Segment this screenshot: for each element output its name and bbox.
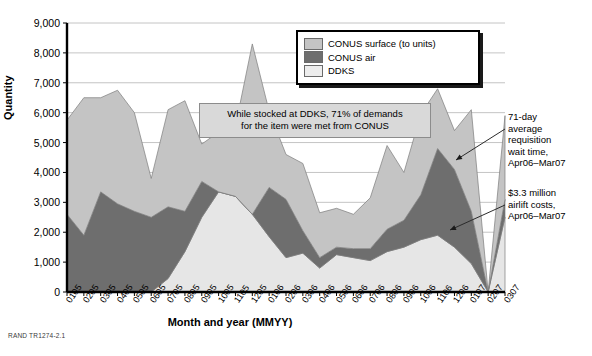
y-axis-tick-label: 4,000 — [16, 166, 60, 178]
legend-label-conus-surface: CONUS surface (to units) — [328, 38, 436, 49]
legend-label-conus-air: CONUS air — [328, 52, 376, 63]
callout-annotation: While stocked at DDKS, 71% of demands fo… — [199, 103, 431, 138]
annotation-airlift-cost: $3.3 million airlift costs, Apr06–Mar07 — [508, 187, 566, 222]
callout-line-2: for the item were met from CONUS — [203, 120, 427, 132]
callout-line-1: While stocked at DDKS, 71% of demands — [203, 108, 427, 120]
legend-item: CONUS air — [304, 51, 472, 63]
legend-item: DDKS — [304, 65, 472, 77]
annotation-requisition-wait-time: 71-day average requisition wait time, Ap… — [508, 111, 566, 169]
legend-label-ddks: DDKS — [328, 65, 354, 76]
chart-legend: CONUS surface (to units) CONUS air DDKS — [296, 30, 480, 85]
y-axis-tick-label: 8,000 — [16, 47, 60, 59]
legend-item: CONUS surface (to units) — [304, 38, 472, 50]
figure-stacked-area-chart: Quantity Month and year (MMYY) CONUS sur… — [0, 0, 592, 356]
legend-swatch-ddks — [304, 65, 323, 77]
y-axis-tick-label: 5,000 — [16, 137, 60, 149]
y-axis-tick-label: 6,000 — [16, 107, 60, 119]
y-axis-tick-label: 0 — [16, 286, 60, 298]
y-axis-tick-label: 2,000 — [16, 226, 60, 238]
y-axis-tick-label: 1,000 — [16, 256, 60, 268]
y-axis-tick-label: 3,000 — [16, 196, 60, 208]
x-axis-title: Month and year (MMYY) — [0, 316, 460, 328]
y-axis-tick-label: 7,000 — [16, 77, 60, 89]
legend-swatch-conus-air — [304, 51, 323, 63]
legend-swatch-conus-surface — [304, 38, 323, 50]
source-note: RAND TR1274-2.1 — [8, 332, 65, 339]
y-axis-title: Quantity — [2, 75, 14, 120]
y-axis-tick-label: 9,000 — [16, 17, 60, 29]
